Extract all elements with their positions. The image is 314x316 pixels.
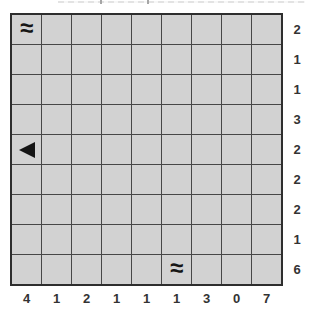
grid-cell[interactable] xyxy=(132,255,161,284)
grid-cell[interactable] xyxy=(162,195,191,224)
grid-cell[interactable] xyxy=(42,105,71,134)
col-tally: 0 xyxy=(222,288,251,308)
grid-cell[interactable] xyxy=(252,15,281,44)
battleship-puzzle: ≈≈ 2 1 1 3 2 2 2 1 6 4 1 2 1 1 1 3 0 7 xyxy=(0,0,314,316)
grid-cell[interactable] xyxy=(12,45,41,74)
grid-cell[interactable] xyxy=(252,135,281,164)
grid-cell[interactable] xyxy=(162,225,191,254)
grid-cell[interactable] xyxy=(192,255,221,284)
row-tally: 1 xyxy=(288,225,306,254)
col-tally: 1 xyxy=(132,288,161,308)
grid-cell[interactable] xyxy=(72,225,101,254)
grid-cell[interactable] xyxy=(222,165,251,194)
grid-cell[interactable] xyxy=(42,75,71,104)
grid-cell[interactable] xyxy=(252,165,281,194)
grid-cell[interactable] xyxy=(192,75,221,104)
col-tallies: 4 1 2 1 1 1 3 0 7 xyxy=(12,288,282,308)
grid-cell[interactable] xyxy=(222,45,251,74)
grid-cell[interactable] xyxy=(132,135,161,164)
grid-cell[interactable] xyxy=(72,255,101,284)
grid-cell[interactable] xyxy=(192,15,221,44)
grid-cell[interactable] xyxy=(132,195,161,224)
grid-cell[interactable] xyxy=(102,45,131,74)
row-tally: 2 xyxy=(288,15,306,44)
grid-cell[interactable] xyxy=(222,75,251,104)
grid-cell[interactable] xyxy=(102,135,131,164)
grid-cell[interactable] xyxy=(162,105,191,134)
grid-cell[interactable] xyxy=(132,225,161,254)
water-icon: ≈ xyxy=(20,16,33,40)
cropped-text-remnant xyxy=(147,0,149,4)
col-tally: 4 xyxy=(12,288,41,308)
grid-cell[interactable] xyxy=(12,165,41,194)
grid-cell[interactable] xyxy=(252,45,281,74)
grid-cell[interactable] xyxy=(72,75,101,104)
grid-cell[interactable] xyxy=(192,105,221,134)
grid-cell[interactable] xyxy=(102,225,131,254)
grid-cell[interactable] xyxy=(102,75,131,104)
grid-cell[interactable] xyxy=(12,255,41,284)
col-tally: 1 xyxy=(42,288,71,308)
grid-cell[interactable] xyxy=(132,105,161,134)
grid-cell[interactable] xyxy=(42,135,71,164)
grid-cell[interactable]: ≈ xyxy=(162,255,191,284)
col-tally: 3 xyxy=(192,288,221,308)
grid-cell[interactable] xyxy=(192,225,221,254)
cropped-text-remnant xyxy=(58,1,305,3)
grid-cell[interactable] xyxy=(72,165,101,194)
row-tally: 1 xyxy=(288,45,306,74)
grid-cell[interactable] xyxy=(162,135,191,164)
grid-cell[interactable] xyxy=(42,225,71,254)
grid-cell[interactable] xyxy=(162,15,191,44)
grid-cell[interactable] xyxy=(12,225,41,254)
grid-cell[interactable] xyxy=(162,165,191,194)
grid-cell[interactable] xyxy=(72,15,101,44)
grid-cell[interactable] xyxy=(192,195,221,224)
grid-cell[interactable] xyxy=(42,165,71,194)
grid-cell[interactable] xyxy=(222,15,251,44)
grid-cell[interactable] xyxy=(222,195,251,224)
grid-cell[interactable] xyxy=(72,135,101,164)
grid-cell[interactable] xyxy=(42,195,71,224)
grid-cell[interactable] xyxy=(12,75,41,104)
grid-cell[interactable] xyxy=(162,45,191,74)
grid-cell[interactable] xyxy=(222,135,251,164)
grid-cell[interactable] xyxy=(72,45,101,74)
grid-cell[interactable] xyxy=(252,255,281,284)
grid-cell[interactable] xyxy=(102,105,131,134)
grid-cell[interactable] xyxy=(102,195,131,224)
row-tally: 6 xyxy=(288,255,306,284)
grid-cell[interactable] xyxy=(252,195,281,224)
water-icon: ≈ xyxy=(170,256,183,280)
grid-cell[interactable] xyxy=(132,75,161,104)
grid-cell[interactable] xyxy=(252,105,281,134)
grid-cell[interactable] xyxy=(102,15,131,44)
grid-cell[interactable] xyxy=(12,195,41,224)
grid-cell[interactable] xyxy=(222,255,251,284)
grid-cell[interactable] xyxy=(162,75,191,104)
grid-cell[interactable] xyxy=(102,165,131,194)
grid-cell[interactable] xyxy=(192,45,221,74)
grid-cell[interactable] xyxy=(12,105,41,134)
grid-cell[interactable] xyxy=(252,225,281,254)
grid-cell[interactable] xyxy=(132,15,161,44)
grid-cell[interactable] xyxy=(252,75,281,104)
grid-cell[interactable] xyxy=(42,45,71,74)
grid-cell[interactable] xyxy=(192,135,221,164)
grid-cell[interactable] xyxy=(42,15,71,44)
grid-cell[interactable] xyxy=(72,105,101,134)
grid-cell[interactable] xyxy=(132,45,161,74)
grid-cell[interactable] xyxy=(192,165,221,194)
grid-cell[interactable] xyxy=(72,195,101,224)
grid-cell[interactable] xyxy=(132,165,161,194)
col-tally: 1 xyxy=(102,288,131,308)
grid-cell[interactable] xyxy=(222,105,251,134)
grid-cell[interactable] xyxy=(42,255,71,284)
col-tally: 2 xyxy=(72,288,101,308)
grid-cell[interactable] xyxy=(222,225,251,254)
row-tally: 2 xyxy=(288,135,306,164)
grid-cell[interactable] xyxy=(12,135,41,164)
grid-cell[interactable]: ≈ xyxy=(12,15,41,44)
cropped-text-remnant xyxy=(100,0,102,4)
grid-cell[interactable] xyxy=(102,255,131,284)
